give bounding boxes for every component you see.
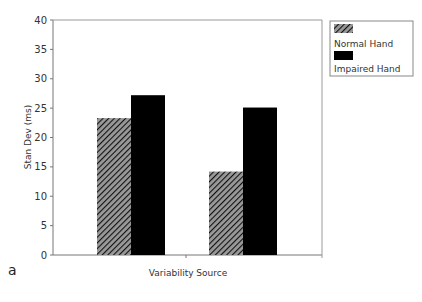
y-tick-label: 20 xyxy=(34,132,47,143)
bar-impaired-hand xyxy=(131,95,165,255)
y-tick-label: 10 xyxy=(34,191,47,202)
y-tick-label: 40 xyxy=(34,15,47,26)
y-tick-label: 0 xyxy=(41,250,47,261)
legend-label: Normal Hand xyxy=(334,39,393,49)
bar-impaired-hand xyxy=(243,108,277,255)
y-axis-label: Stan Dev (ms) xyxy=(23,105,33,169)
bar-normal-hand xyxy=(209,172,243,255)
legend-swatch-impaired xyxy=(334,51,353,60)
y-tick-label: 5 xyxy=(41,220,47,231)
y-tick-label: 35 xyxy=(34,44,47,55)
x-axis-label: Variability Source xyxy=(149,268,228,278)
legend-label: Impaired Hand xyxy=(334,64,400,74)
y-tick-label: 30 xyxy=(34,73,47,84)
legend-swatch-normal xyxy=(334,24,353,33)
y-tick-label: 15 xyxy=(34,161,47,172)
bars xyxy=(97,95,277,255)
axes: 0510152025303540 xyxy=(34,15,322,261)
panel-label: a xyxy=(8,262,17,278)
bar-chart: 0510152025303540 Normal HandImpaired Han… xyxy=(0,0,422,302)
legend: Normal HandImpaired Hand xyxy=(330,21,413,76)
bar-normal-hand xyxy=(97,118,131,255)
y-tick-label: 25 xyxy=(34,103,47,114)
